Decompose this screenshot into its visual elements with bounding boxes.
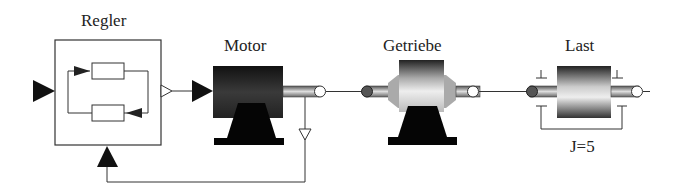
diagram-canvas: Regler Motor Getriebe — [0, 0, 676, 195]
feedback-port-icon[interactable] — [97, 146, 118, 167]
motor-block[interactable]: Motor — [213, 36, 326, 145]
getriebe-label: Getriebe — [383, 36, 442, 55]
regler-label: Regler — [81, 11, 127, 30]
sensor-output-icon — [299, 129, 311, 140]
flange-icon[interactable] — [468, 86, 479, 97]
flange-icon[interactable] — [632, 86, 643, 97]
motor-input-port-icon[interactable] — [192, 80, 213, 102]
input-port-icon[interactable] — [33, 80, 55, 102]
output-port-icon — [161, 85, 172, 97]
last-label: Last — [565, 36, 595, 55]
flange-icon[interactable] — [362, 86, 373, 97]
getriebe-block[interactable]: Getriebe — [362, 36, 481, 145]
regler-block[interactable]: Regler — [55, 11, 172, 145]
last-block[interactable]: Last J=5 — [527, 36, 643, 156]
flange-icon[interactable] — [527, 86, 538, 97]
motor-label: Motor — [224, 36, 267, 55]
flange-icon[interactable] — [315, 86, 326, 97]
last-inertia-parameter: J=5 — [570, 137, 595, 156]
motor-shaft — [283, 86, 319, 97]
